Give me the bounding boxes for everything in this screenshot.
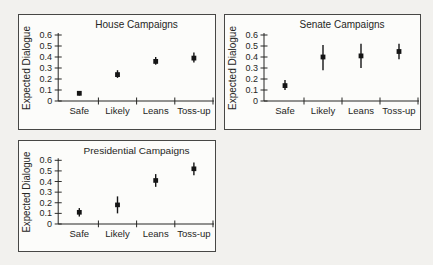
y-tick-label: 0.6: [40, 30, 53, 40]
y-tick-label: 0.6: [245, 30, 258, 40]
data-point-safe: [77, 91, 82, 96]
y-tick-label: 0.4: [40, 177, 53, 187]
chart-panel-senate-campaigns: Senate CampaignsExpected Dialogue00.10.2…: [224, 14, 421, 130]
y-tick-label: 0.1: [40, 85, 53, 95]
x-tick-label-leans: Leans: [348, 105, 374, 116]
y-tick-label: 0.4: [245, 52, 258, 62]
y-tick-label: 0.3: [40, 63, 53, 73]
y-tick-label: 0.5: [40, 166, 53, 176]
y-tick-label: 0.2: [40, 74, 53, 84]
y-tick-label: 0.3: [40, 187, 53, 197]
y-tick-label: 0: [253, 96, 258, 106]
y-axis-title: Expected Dialogue: [21, 26, 32, 110]
x-tick-label-likely: Likely: [105, 105, 130, 116]
y-tick-label: 0.4: [40, 52, 53, 62]
x-tick-label-toss-up: Toss-up: [177, 229, 210, 239]
chart-title: Senate Campaigns: [299, 19, 384, 30]
y-tick-label: 0: [47, 219, 52, 229]
chart-svg: House CampaignsExpected Dialogue00.10.20…: [19, 15, 215, 129]
data-point-likely: [321, 55, 326, 60]
data-point-toss-up: [191, 166, 196, 171]
chart-panel-presidential-campaigns: Presidential CampaignsExpected Dialogue0…: [18, 140, 216, 252]
x-tick-label-leans: Leans: [143, 229, 169, 239]
y-tick-label: 0.6: [40, 156, 53, 166]
y-axis-title: Expected Dialogue: [227, 26, 238, 110]
data-point-likely: [115, 203, 120, 208]
data-point-toss-up: [191, 56, 196, 61]
data-point-leans: [153, 178, 158, 183]
chart-svg: Senate CampaignsExpected Dialogue00.10.2…: [225, 15, 420, 129]
y-tick-label: 0.5: [245, 41, 258, 51]
y-tick-label: 0.3: [245, 63, 258, 73]
x-tick-label-safe: Safe: [69, 105, 89, 116]
x-tick-label-likely: Likely: [105, 229, 130, 239]
x-tick-label-likely: Likely: [311, 105, 336, 116]
figure-canvas: House CampaignsExpected Dialogue00.10.20…: [0, 0, 433, 265]
x-tick-label-toss-up: Toss-up: [177, 105, 210, 116]
data-point-safe: [77, 210, 82, 215]
x-tick-label-safe: Safe: [69, 229, 89, 239]
x-tick-label-safe: Safe: [275, 105, 295, 116]
data-point-toss-up: [397, 49, 402, 54]
chart-title: House Campaigns: [95, 19, 178, 30]
y-tick-label: 0.5: [40, 41, 53, 51]
data-point-leans: [359, 54, 364, 59]
y-tick-label: 0.1: [40, 209, 53, 219]
data-point-safe: [283, 83, 288, 88]
chart-title: Presidential Campaigns: [84, 145, 190, 156]
y-tick-label: 0: [47, 96, 52, 106]
y-tick-label: 0.1: [245, 85, 258, 95]
chart-svg: Presidential CampaignsExpected Dialogue0…: [19, 141, 215, 251]
y-tick-label: 0.2: [40, 198, 53, 208]
data-point-leans: [153, 59, 158, 64]
data-point-likely: [115, 72, 120, 77]
y-tick-label: 0.2: [245, 74, 258, 84]
chart-panel-house-campaigns: House CampaignsExpected Dialogue00.10.20…: [18, 14, 216, 130]
y-axis-title: Expected Dialogue: [21, 151, 32, 232]
x-tick-label-toss-up: Toss-up: [382, 105, 415, 116]
x-tick-label-leans: Leans: [143, 105, 169, 116]
